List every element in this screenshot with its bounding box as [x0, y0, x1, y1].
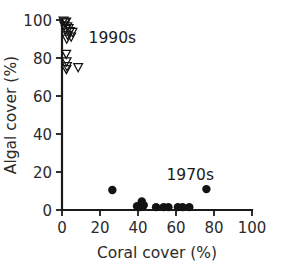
x-axis-tick-label: 80 — [204, 219, 223, 237]
series-annotations-layer: 1990s1970s — [89, 29, 214, 184]
scatter-plot-figure: 020406080100020406080100 1990s1970s Cora… — [0, 0, 288, 271]
series-label-1990s: 1990s — [89, 29, 137, 47]
data-point-circle — [152, 203, 160, 211]
data-point-circle — [185, 203, 193, 211]
series-1970s — [108, 185, 210, 211]
x-axis-tick-label: 0 — [57, 219, 67, 237]
x-axis-tick-label: 60 — [166, 219, 185, 237]
data-point-circle — [108, 186, 116, 194]
y-axis-tick-label: 40 — [33, 126, 52, 144]
data-point-circle — [164, 203, 172, 211]
x-axis-tick-label: 20 — [90, 219, 109, 237]
y-axis-tick-label: 80 — [33, 50, 52, 68]
data-point-circle — [140, 201, 148, 209]
x-axis-tick-label: 40 — [128, 219, 147, 237]
data-point-circle — [202, 185, 210, 193]
axis-ticks-layer — [56, 20, 252, 216]
x-axis-tick-label: 100 — [238, 219, 267, 237]
y-axis-title: Algal cover (%) — [2, 56, 20, 174]
y-axis-tick-label: 60 — [33, 88, 52, 106]
series-label-1970s: 1970s — [167, 166, 215, 184]
x-axis-title: Coral cover (%) — [97, 244, 217, 262]
data-point-triangle — [74, 64, 83, 72]
plot-canvas: 020406080100020406080100 1990s1970s Cora… — [0, 0, 288, 271]
y-axis-tick-label: 100 — [23, 12, 52, 30]
y-axis-tick-label: 20 — [33, 164, 52, 182]
y-axis-tick-label: 0 — [42, 202, 52, 220]
